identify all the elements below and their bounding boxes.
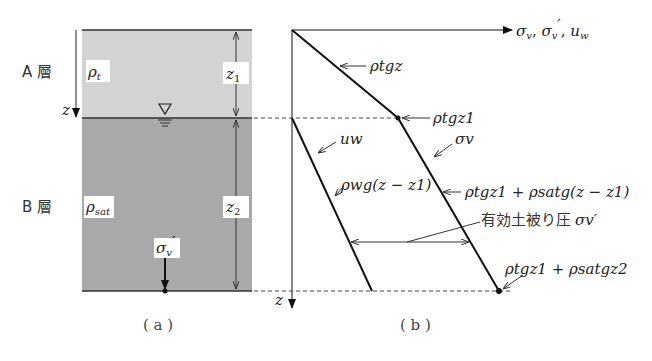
label-total-formula: ρtgz1 + ρsatg(z − z1)	[464, 183, 629, 201]
depth-axis-a-label: z	[61, 101, 70, 119]
caption-b: ( b )	[400, 316, 431, 334]
stress-axis-label: σv, σv′, uw	[516, 16, 589, 41]
label-pore-formula: ρwg(z − z1)	[340, 176, 432, 194]
label-uw: uw	[340, 130, 363, 148]
label-bottom-value: ρtgz1 + ρsatgz2	[504, 260, 628, 278]
caption-a: ( a )	[143, 316, 173, 334]
label-sigma-v: σv	[455, 130, 474, 148]
layer-a-label: A 層	[22, 63, 52, 81]
label-effective-stress: 有効土被り圧σv′	[481, 211, 598, 229]
layer-b-label: B 層	[22, 198, 52, 216]
label-rho-t-g-z: ρtgz	[369, 57, 402, 75]
depth-axis-b-label: z	[274, 291, 283, 309]
stress-distribution-diagram: A 層 B 層 ρt ρsat z1 z2 z σv′ ( a )	[0, 0, 652, 361]
stress-graph-panel-b: σv, σv′, uw z ρtgz ρtgz1 uw ρwg(z − z1) …	[254, 16, 629, 334]
soil-profile-panel-a: A 層 B 層 ρt ρsat z1 z2 z σv′ ( a )	[22, 30, 252, 334]
label-rho-t-g-z1: ρtgz1	[432, 109, 475, 127]
